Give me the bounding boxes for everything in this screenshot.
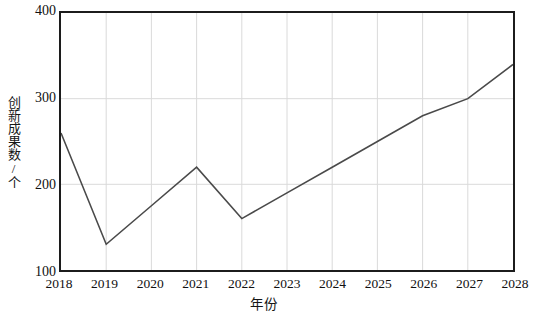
x-axis-tick-labels: 2018201920202021202220232024202520262027…: [0, 276, 528, 296]
y-tick-label: 400: [22, 4, 56, 18]
x-tick-label: 2020: [125, 276, 175, 292]
x-tick-label: 2024: [308, 276, 358, 292]
x-tick-label: 2023: [262, 276, 312, 292]
x-tick-label: 2028: [490, 276, 533, 292]
y-tick-label: 200: [22, 178, 56, 192]
x-tick-label: 2022: [216, 276, 266, 292]
x-tick-label: 2027: [444, 276, 494, 292]
plot-area: [59, 11, 515, 272]
vertical-gridlines: [106, 13, 468, 270]
x-tick-label: 2025: [353, 276, 403, 292]
chart-svg: [61, 13, 513, 270]
x-axis-title: 年份: [0, 297, 528, 313]
x-tick-label: 2021: [171, 276, 221, 292]
y-axis-tick-labels: 100200300400: [18, 0, 56, 319]
x-tick-label: 2019: [80, 276, 130, 292]
x-tick-label: 2026: [399, 276, 449, 292]
x-tick-label: 2018: [34, 276, 84, 292]
y-tick-label: 300: [22, 91, 56, 105]
